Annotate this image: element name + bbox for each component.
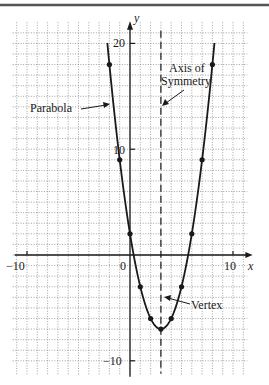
data-point [158, 326, 163, 331]
parabola-arrow [81, 105, 106, 109]
x-tick-label-0: 0 [120, 259, 126, 273]
data-point [169, 316, 174, 321]
vertex-arrowhead-icon [164, 295, 171, 301]
y-axis-label: y [133, 11, 140, 25]
annotation-vertex: Vertex [191, 298, 222, 312]
data-point [138, 284, 143, 289]
y-tick-label-10: 10 [113, 143, 125, 157]
x-axis-arrow-icon [245, 252, 252, 258]
annotation-axis-of-symmetry-line1: Axis of [169, 61, 205, 75]
parabola-chart: −10 0 10 20 10 −10 x y Parabola Axis of … [0, 0, 269, 385]
data-point [179, 284, 184, 289]
y-axis-arrow-icon [127, 21, 133, 29]
data-point [117, 157, 122, 162]
symmetry-arrowhead-icon [162, 99, 169, 106]
data-point [107, 62, 112, 67]
x-axis-label: x [247, 259, 254, 273]
x-tick-label-neg10: −10 [6, 259, 25, 273]
annotation-axis-of-symmetry-line2: Symmetry [161, 74, 211, 88]
y-tick-label-neg10: −10 [103, 354, 122, 368]
data-point [210, 62, 215, 67]
data-point [127, 231, 132, 236]
annotation-parabola: Parabola [30, 101, 73, 115]
axes [15, 21, 253, 376]
x-tick-label-10: 10 [224, 259, 236, 273]
data-point [200, 157, 205, 162]
data-point [148, 316, 153, 321]
annotations: Parabola Axis of Symmetry Vertex [30, 61, 222, 312]
data-point [189, 231, 194, 236]
y-tick-label-20: 20 [113, 36, 125, 50]
